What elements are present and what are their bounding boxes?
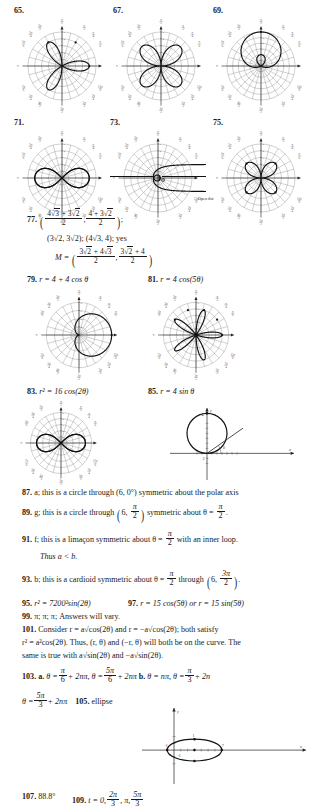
svg-text:-1: -1 [165,743,168,748]
svg-text:2π3: 2π3 [237,136,241,143]
svg-text:3π4: 3π4 [228,31,232,38]
svg-text:2π3: 2π3 [173,295,177,302]
svg-text:2π3: 2π3 [38,136,42,143]
svg-text:5π3: 5π3 [179,213,183,220]
svg-text:2π3: 2π3 [38,24,42,31]
svg-text:π: π [153,333,155,337]
svg-text:5π3: 5π3 [99,368,103,375]
answer-103-line1: 103. a. θ =π6+ 2nπ, θ =5π6+ 2nπ b. θ = n… [22,667,210,685]
svg-text:3π4: 3π4 [29,143,33,150]
answer-77-line3: M = (3√2 + 4√32,3√2 + 42) [55,248,153,265]
svg-text:11π6: 11π6 [197,84,202,91]
svg-text:3π2: 3π2 [59,479,63,486]
svg-text:11π6: 11π6 [98,196,103,203]
svg-text:π: π [116,64,118,68]
svg-text:11π6: 11π6 [93,459,98,466]
svg-text:7π6: 7π6 [25,459,29,466]
answer-97: 97. r = 15 cos(5θ) or r = 15 sin(5θ) [128,598,244,609]
svg-text:3π2: 3π2 [259,219,263,226]
svg-text:5π3: 5π3 [282,101,286,108]
polar-graph-73: π6π4π3π22π33π45π6π7π65π44π33π25π37π411π6… [110,130,206,226]
svg-text:5π6: 5π6 [41,310,45,317]
answer-key-page: 65. π6π4π3π22π33π45π6π7π65π44π33π25π37π4… [0,0,323,810]
answer-81: 81. r = 4 cos(5θ) [148,274,203,285]
svg-text:π: π [216,64,218,68]
svg-text:3π2: 3π2 [259,107,263,114]
answer-103-line2: θ =5π3+ 2nπ 105. ellipse [22,692,113,710]
svg-text:θ: θ [223,446,225,450]
answer-101-line2: r² = a²cos(2θ). Thus, (r, θ) and (−r, θ)… [22,637,241,648]
svg-text:5π3: 5π3 [282,213,286,220]
svg-text:π: π [216,176,218,180]
svg-text:2π3: 2π3 [237,24,241,31]
svg-text:5π4: 5π4 [125,206,129,213]
circle-graph-85: 42yxθ [168,405,298,483]
svg-text:5π6: 5π6 [221,152,225,159]
svg-text:3π4: 3π4 [128,31,132,38]
svg-text:5π4: 5π4 [31,467,35,474]
svg-text:7π6: 7π6 [221,84,225,91]
answer-83: 83. r² = 16 cos(2θ) [27,386,89,397]
svg-text:1: 1 [192,733,194,738]
svg-text:4: 4 [202,412,204,417]
polar-graph-75: π6π4π3π22π33π45π6π7π65π44π33π25π37π411π6… [213,130,309,226]
svg-text:π: π [17,64,19,68]
paren-close: ) [141,511,144,519]
svg-text:-1: -1 [178,753,181,758]
svg-text:5π3: 5π3 [182,101,186,108]
svg-text:5π6: 5π6 [158,310,162,317]
svg-text:5π6: 5π6 [22,40,26,47]
polar-graph-67: π6π4π3π22π33π45π6π7π65π44π33π25π37π411π6… [113,18,209,114]
svg-text:3π4: 3π4 [125,143,129,150]
paren-close: ) [117,218,120,226]
svg-text:3π2: 3π2 [194,374,198,381]
open-dot-label: Open dot [198,196,213,201]
paren-open: ( [117,511,120,519]
svg-text:5π4: 5π4 [29,94,33,101]
answer-87: 87. a; this is a circle through (6, 0°) … [22,487,239,498]
answer-85: 85. r = 4 sin θ [148,386,194,397]
answer-99: 99. π; π; π; Answers will vary. [22,611,120,622]
answer-95: 95. r² = 7200²sin(2θ) [22,598,91,609]
svg-text:4π3: 4π3 [38,101,42,108]
svg-text:4π3: 4π3 [134,213,138,220]
svg-text:y: y [176,709,179,714]
svg-text:7π4: 7π4 [188,206,192,213]
svg-text:5π4: 5π4 [47,361,51,368]
svg-text:5π3: 5π3 [83,101,87,108]
svg-text:7π6: 7π6 [118,196,122,203]
answer-79: 79. r = 4 + 4 cos θ [27,274,88,285]
polar-graph-69: π6π4π3π22π33π45π6π7π65π44π33π25π37π411π6… [213,18,309,114]
answer-101-line1: 101. Consider r = a√cos(2θ) and r = −a√c… [22,624,218,635]
paren-open: ( [72,256,75,264]
svg-text:3π4: 3π4 [228,143,232,150]
svg-text:11π6: 11π6 [297,196,302,203]
svg-text:7π6: 7π6 [41,353,45,360]
svg-text:7π6: 7π6 [22,196,26,203]
svg-text:3π2: 3π2 [60,107,64,114]
svg-text:2: 2 [81,325,83,329]
answer-77: 77. (4√3 + 3√22,4 + 3√22); [27,210,123,227]
svg-text:π: π [21,441,23,445]
answer-number-69: 69. [213,5,223,16]
svg-text:5π4: 5π4 [228,94,232,101]
answer-91-line2: Thus a < b. [40,551,77,562]
answer-107: 107. 88.8° [22,791,56,802]
polar-graph-83: π6π4π3π22π33π45π6π7π65π44π33π25π37π411π6… [18,400,104,486]
answer-77-line2: (3√2, 3√2); (4√3, 4); yes [47,233,127,244]
svg-text:3π4: 3π4 [164,301,168,308]
svg-text:4π3: 4π3 [40,474,44,481]
svg-text:π: π [17,176,19,180]
svg-text:11π6: 11π6 [113,353,118,360]
answer-109: 109. t = 0,2π3, π,5π3 [72,791,144,809]
answer-91: 91. f; this is a limaçon symmetric about… [22,530,238,548]
svg-text:4π3: 4π3 [237,101,241,108]
answer-number-67: 67. [113,5,123,16]
svg-text:3π2: 3π2 [159,107,163,114]
answer-89: 89. g; this is a circle through (6, π2) … [22,503,228,521]
svg-text:1: 1 [160,169,162,173]
svg-text:1: 1 [64,169,66,173]
svg-text:11π6: 11π6 [297,84,302,91]
svg-text:11π6: 11π6 [98,84,103,91]
svg-text:5π6: 5π6 [121,40,125,47]
